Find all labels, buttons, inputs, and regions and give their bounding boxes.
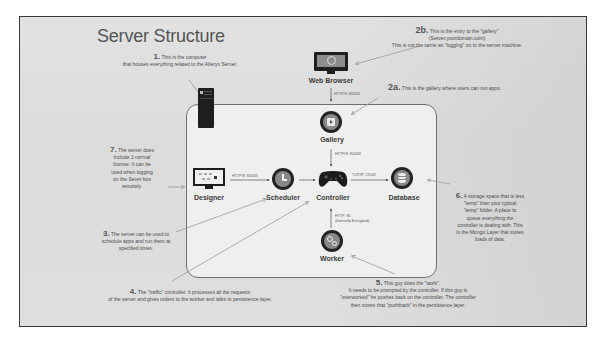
note-2b: 2b. This is the entry to the "gallery" (… (362, 27, 552, 50)
note-4: 4. The "traffic" controller. It processe… (70, 288, 310, 303)
note-7: 7. The server does include 1 normal lice… (96, 146, 168, 190)
note-1: 1. This is the computer that houses ever… (95, 53, 265, 68)
note-6: 6. A storage space that is less "temp" t… (440, 192, 540, 243)
note-3: 3. The server can be used to schedule ap… (86, 230, 186, 253)
note-5: 5. This guy does the "work". It needs to… (308, 279, 508, 309)
note-2a: 2a. This is the gallery where users can … (388, 84, 558, 92)
